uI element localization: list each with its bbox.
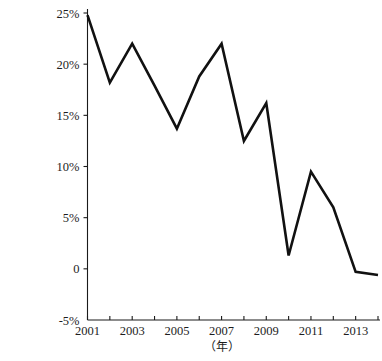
y-axis-tick-label: 0 (73, 262, 79, 276)
y-axis: 25%20%15%10%5%0-5% (57, 7, 88, 328)
x-axis-unit-label-text: （年） (204, 340, 240, 354)
data-series-line (88, 15, 379, 275)
x-axis: 2001200320052007200920112013 (75, 316, 380, 338)
y-axis-tick-label: 20% (57, 58, 80, 72)
x-axis-tick-label: 2013 (343, 324, 368, 338)
y-axis-tick-label: 5% (63, 211, 80, 225)
x-axis-tick-label: 2005 (164, 324, 189, 338)
x-axis-tick-label: 2011 (299, 324, 324, 338)
x-axis-unit-label: （年） (204, 340, 240, 354)
x-axis-tick-label: 2001 (75, 324, 100, 338)
data-series-group (88, 15, 379, 275)
x-axis-tick-label: 2009 (254, 324, 279, 338)
line-chart: 25%20%15%10%5%0-5% 200120032005200720092… (0, 0, 382, 361)
y-axis-tick-label: 15% (57, 109, 80, 123)
y-axis-tick-label: 10% (57, 160, 80, 174)
x-axis-tick-label: 2007 (209, 324, 234, 338)
x-axis-tick-label: 2003 (120, 324, 145, 338)
chart-plot-area: 25%20%15%10%5%0-5% 200120032005200720092… (0, 0, 382, 361)
y-axis-tick-label: 25% (57, 7, 80, 21)
